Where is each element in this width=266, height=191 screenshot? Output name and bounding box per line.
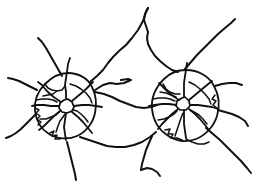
road-network-drawing — [0, 0, 266, 191]
canvas-background — [0, 0, 266, 191]
left-spoke-west — [32, 105, 59, 106]
diagram-canvas — [0, 0, 266, 191]
